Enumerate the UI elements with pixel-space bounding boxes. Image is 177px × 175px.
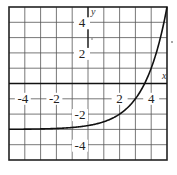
stray-mark — [91, 38, 93, 40]
x-tick-label: 4 — [148, 91, 155, 106]
stray-mark — [171, 41, 173, 43]
x-tick-label: 2 — [116, 91, 123, 106]
y-tick-label: 4 — [79, 15, 86, 30]
y-tick-label: -4 — [75, 138, 86, 153]
y-axis-label: y — [90, 6, 96, 17]
graph: -4-22442-2-4 x y — [0, 0, 177, 175]
x-tick-label: -4 — [17, 91, 28, 106]
y-tick-label: 2 — [79, 46, 86, 61]
x-tick-label: -2 — [49, 91, 60, 106]
x-axis-label: x — [161, 70, 167, 81]
y-tick-label: -2 — [75, 107, 86, 122]
